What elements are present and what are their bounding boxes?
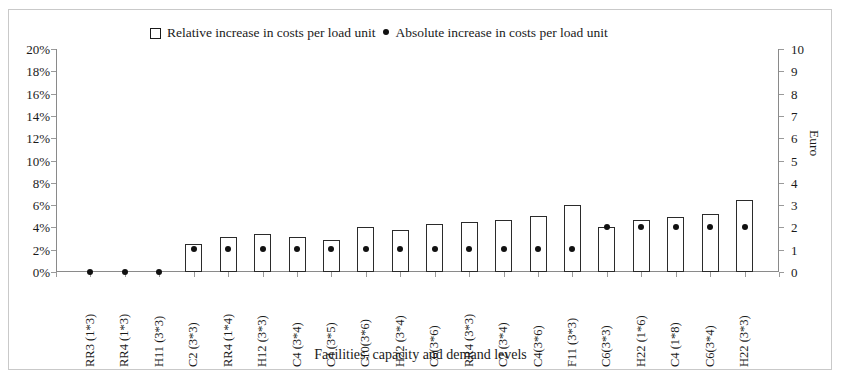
y-tick-right [779,71,784,72]
data-point [569,246,575,252]
data-point [535,246,541,252]
y-tick-right [779,161,784,162]
y-axis-right-title: Euro [806,130,822,156]
y-tick-left [51,205,56,206]
data-point [328,246,334,252]
legend-item-relative: Relative increase in costs per load unit [150,25,375,41]
y-tick-right [779,205,784,206]
data-point [294,246,300,252]
y-tick-label-left: 18% [26,65,50,78]
y-tick-label-left: 4% [33,221,50,234]
data-point [87,269,93,275]
y-tick-label-right: 7 [791,109,798,122]
y-tick-label-left: 20% [26,43,50,56]
data-point [432,246,438,252]
y-tick-left [51,49,56,50]
data-point [673,224,679,230]
data-point [191,246,197,252]
y-tick-right [779,227,784,228]
y-tick-left [51,227,56,228]
chart-container: Relative increase in costs per load unit… [0,0,841,388]
y-tick-label-left: 8% [33,176,50,189]
legend-item-absolute: Absolute increase in costs per load unit [383,25,607,41]
data-point [604,224,610,230]
y-tick-right [779,183,784,184]
bar [323,240,340,272]
x-tick [779,272,780,277]
data-point [501,246,507,252]
bar [736,200,753,272]
y-tick-left [51,183,56,184]
y-tick-label-right: 4 [791,176,798,189]
bar [254,234,271,272]
x-axis-title: Facilities, capacity and demand levels [0,347,841,363]
x-tick [56,272,57,277]
y-tick-right [779,49,784,50]
y-tick-right [779,94,784,95]
y-tick-label-right: 10 [791,43,804,56]
dot-marker-icon [383,29,389,35]
y-tick-label-right: 2 [791,221,798,234]
y-axis-left [56,49,57,272]
y-tick-label-right: 6 [791,132,798,145]
y-tick-left [51,94,56,95]
legend-label-absolute: Absolute increase in costs per load unit [395,25,607,41]
y-tick-right [779,138,784,139]
data-point [742,224,748,230]
y-tick-label-left: 6% [33,199,50,212]
data-point [156,269,162,275]
bar [530,216,547,272]
y-tick-right [779,250,784,251]
y-tick-right [779,116,784,117]
y-tick-label-right: 9 [791,65,798,78]
data-point [363,246,369,252]
y-tick-left [51,161,56,162]
y-tick-label-right: 5 [791,154,798,167]
y-tick-label-left: 14% [26,109,50,122]
y-tick-label-left: 2% [33,243,50,256]
bar [702,214,719,272]
y-tick-label-right: 3 [791,199,798,212]
y-tick-left [51,116,56,117]
y-tick-label-right: 8 [791,87,798,100]
data-point [122,269,128,275]
plot-area: 0%2%4%6%8%10%12%14%16%18%20% 01234567891… [56,49,779,272]
square-marker-icon [150,28,161,39]
legend-label-relative: Relative increase in costs per load unit [167,25,375,41]
y-tick-label-right: 0 [791,266,798,279]
data-point [260,246,266,252]
data-point [638,224,644,230]
y-tick-label-left: 16% [26,87,50,100]
y-tick-label-right: 1 [791,243,798,256]
bar [564,205,581,272]
bar [220,237,237,272]
y-tick-label-left: 10% [26,154,50,167]
y-tick-left [51,138,56,139]
data-point [466,246,472,252]
y-tick-label-left: 12% [26,132,50,145]
data-point [225,246,231,252]
data-point [397,246,403,252]
y-tick-label-left: 0% [33,266,50,279]
chart-legend: Relative increase in costs per load unit… [150,25,608,41]
data-point [707,224,713,230]
y-tick-left [51,250,56,251]
bar [289,237,306,272]
bar [598,227,615,272]
y-tick-left [51,71,56,72]
